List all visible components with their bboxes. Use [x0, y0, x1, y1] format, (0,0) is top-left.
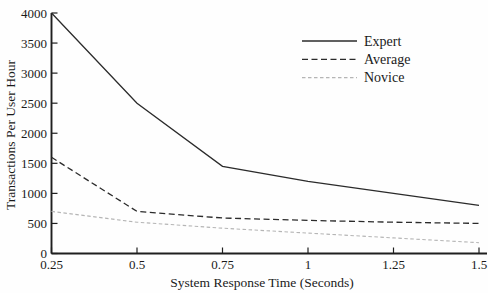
y-tick-label: 2500 — [21, 96, 47, 111]
x-tick-label: 0.25 — [40, 257, 63, 272]
y-tick-label: 4000 — [21, 6, 47, 21]
legend-label-novice: Novice — [364, 70, 404, 85]
x-tick-label: 0.5 — [129, 257, 145, 272]
x-tick-label: 1.25 — [382, 257, 405, 272]
series-line-expert — [52, 13, 480, 205]
x-tick-label: 0.75 — [211, 257, 234, 272]
series-line-novice — [52, 211, 480, 242]
x-axis-title: System Response Time (Seconds) — [170, 275, 353, 290]
legend-label-expert: Expert — [364, 34, 401, 49]
plot-area: 050010001500200025003000350040000.250.50… — [21, 6, 487, 273]
chart-figure: 050010001500200025003000350040000.250.50… — [0, 0, 488, 293]
y-tick-label: 500 — [28, 216, 48, 231]
line-chart-svg: 050010001500200025003000350040000.250.50… — [0, 0, 488, 293]
y-tick-label: 1500 — [21, 156, 47, 171]
y-tick-label: 1000 — [21, 186, 47, 201]
y-tick-label: 3000 — [21, 66, 47, 81]
x-tick-label: 1.5 — [471, 257, 487, 272]
y-tick-label: 2000 — [21, 126, 47, 141]
x-tick-label: 1 — [305, 257, 312, 272]
series-line-average — [52, 157, 480, 223]
y-axis-title: Transactions Per User Hour — [3, 60, 18, 210]
y-tick-label: 3500 — [21, 36, 47, 51]
legend-label-average: Average — [364, 52, 410, 67]
